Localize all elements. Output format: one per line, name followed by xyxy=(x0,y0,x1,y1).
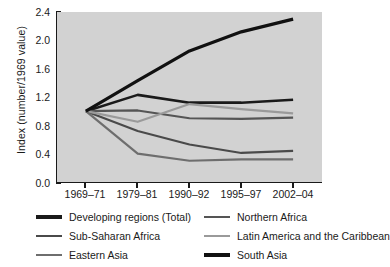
y-axis-tick-label: 0.8 xyxy=(18,121,50,132)
legend-line-swatch xyxy=(36,235,62,238)
legend-label: Eastern Asia xyxy=(69,249,128,261)
legend-label: South Asia xyxy=(237,249,287,261)
plot-area xyxy=(56,12,322,183)
y-axis-tick-label: 0.0 xyxy=(18,178,50,189)
legend-label: Northern Africa xyxy=(237,211,307,223)
legend-label: Latin America and the Caribbean xyxy=(237,230,390,242)
legend-label: Sub-Saharan Africa xyxy=(69,230,160,242)
series-lines xyxy=(57,12,322,182)
legend-line-swatch xyxy=(204,216,230,219)
x-axis-tick-mark xyxy=(188,183,190,188)
x-axis-tick-mark xyxy=(136,183,138,188)
y-axis-tick-label: 2.4 xyxy=(18,7,50,18)
x-axis-tick-label: 2002–04 xyxy=(258,188,328,200)
legend-line-swatch xyxy=(36,254,62,257)
legend-label: Developing regions (Total) xyxy=(69,211,191,223)
legend-line-swatch xyxy=(204,253,230,256)
legend-item[interactable]: Sub-Saharan Africa xyxy=(36,227,160,245)
legend-item[interactable]: Eastern Asia xyxy=(36,246,128,264)
chart-legend: Developing regions (Total)Northern Afric… xyxy=(36,208,366,264)
series-line xyxy=(86,19,293,111)
y-axis-tick-label: 2.0 xyxy=(18,35,50,46)
x-axis-tick-mark xyxy=(240,183,242,188)
legend-line-swatch xyxy=(204,235,230,238)
legend-item[interactable]: Northern Africa xyxy=(204,208,307,226)
x-axis-tick-mark xyxy=(84,183,86,188)
legend-line-swatch xyxy=(36,215,62,218)
legend-item[interactable]: South Asia xyxy=(204,246,287,264)
legend-item[interactable]: Latin America and the Caribbean xyxy=(204,227,390,245)
y-axis-tick-label: 0.4 xyxy=(18,149,50,160)
y-axis-tick-label: 1.6 xyxy=(18,64,50,75)
x-axis-tick-mark xyxy=(292,183,294,188)
legend-item[interactable]: Developing regions (Total) xyxy=(36,208,191,226)
y-axis-tick-label: 1.2 xyxy=(18,92,50,103)
